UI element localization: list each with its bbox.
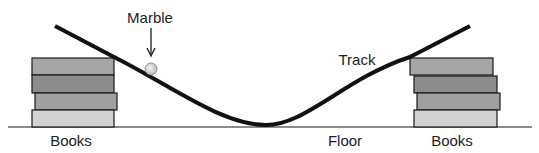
- book-left-3: [35, 93, 117, 110]
- label-track: Track: [339, 51, 376, 68]
- book-right-2: [414, 76, 497, 93]
- marble: [145, 63, 157, 75]
- book-left-1: [32, 58, 114, 75]
- label-floor: Floor: [328, 132, 362, 149]
- marble-track-diagram: Marble Track Books Floor Books: [0, 0, 539, 153]
- book-right-1: [410, 58, 493, 75]
- book-right-3: [417, 93, 500, 110]
- arrow-down-icon: [147, 28, 155, 56]
- label-books-right: Books: [431, 132, 473, 149]
- label-books-left: Books: [50, 132, 92, 149]
- book-right-4: [414, 110, 497, 127]
- label-marble: Marble: [127, 9, 173, 26]
- books-stack-right: [410, 58, 500, 127]
- book-left-4: [32, 110, 114, 127]
- book-left-2: [32, 75, 114, 93]
- books-stack-left: [32, 58, 117, 127]
